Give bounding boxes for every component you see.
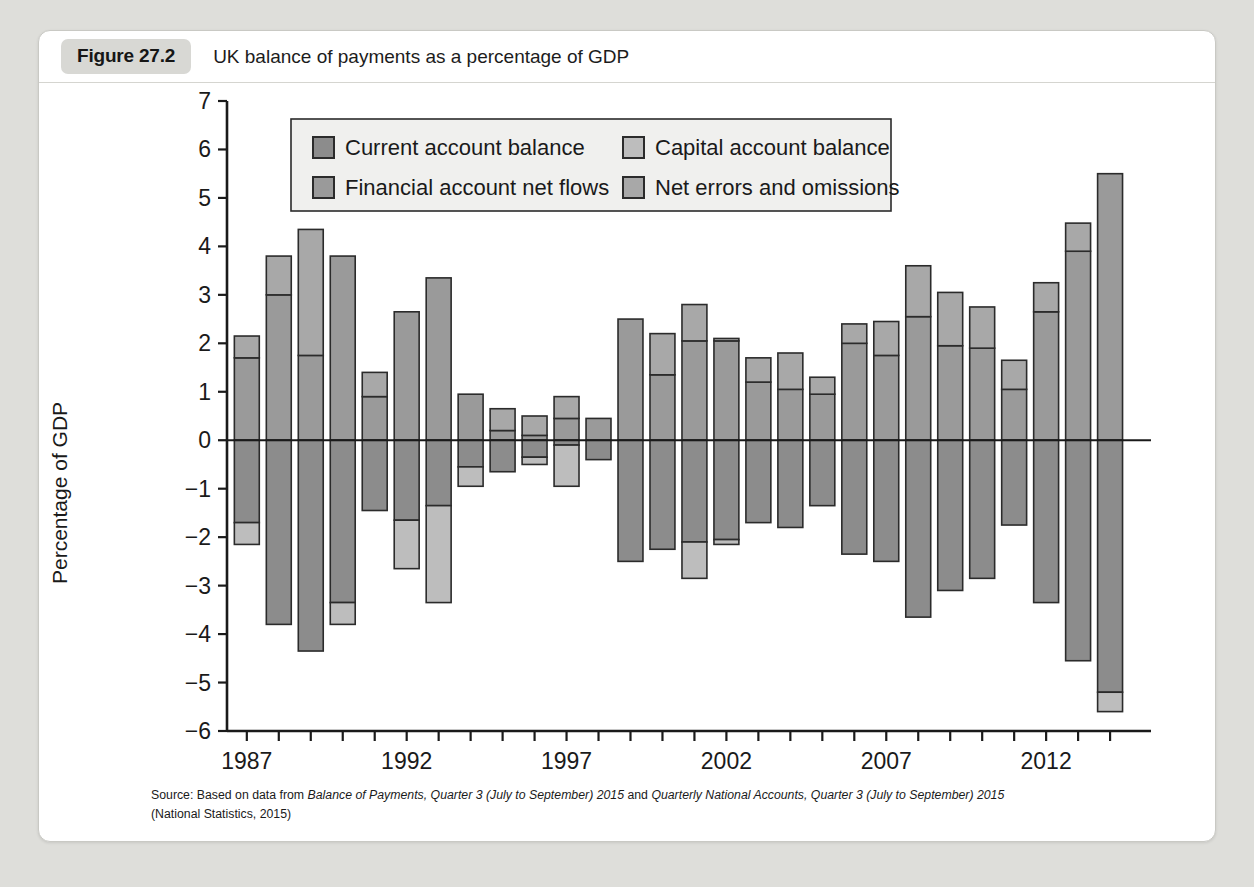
y-tick-label: 5 xyxy=(198,185,211,211)
bar-segment-capital_account xyxy=(682,542,707,578)
bar-segment-net_errors xyxy=(234,336,259,358)
bar-column xyxy=(714,338,739,544)
bar-segment-current_account xyxy=(394,440,419,520)
bar-column xyxy=(1034,283,1059,603)
svg-text:Percentage of GDP: Percentage of GDP xyxy=(48,402,71,584)
legend-label: Capital account balance xyxy=(655,135,890,160)
legend-swatch-financial_account xyxy=(313,177,334,198)
x-tick-label: 1987 xyxy=(221,748,272,774)
bar-segment-current_account xyxy=(490,440,515,472)
bar-segment-financial_account xyxy=(810,394,835,440)
bar-column xyxy=(554,397,579,487)
bar-segment-current_account xyxy=(970,440,995,578)
legend-label: Financial account net flows xyxy=(345,175,609,200)
x-tick-label: 2007 xyxy=(861,748,912,774)
bar-column xyxy=(1002,360,1027,525)
y-tick-label: −4 xyxy=(185,621,211,647)
bar-segment-current_account xyxy=(1034,440,1059,602)
bar-column xyxy=(874,322,899,562)
legend-label: Current account balance xyxy=(345,135,585,160)
bar-column xyxy=(1098,174,1123,712)
legend-item[interactable]: Current account balance xyxy=(313,135,585,160)
bar-segment-current_account xyxy=(330,440,355,602)
bar-segment-net_errors xyxy=(970,307,995,348)
bar-segment-financial_account xyxy=(970,348,995,440)
bar-segment-capital_account xyxy=(1098,692,1123,711)
bar-segment-financial_account xyxy=(298,355,323,440)
bar-column xyxy=(970,307,995,578)
bar-segment-financial_account xyxy=(586,418,611,440)
source-italic-1: Balance of Payments, Quarter 3 (July to … xyxy=(308,788,624,802)
bar-segment-financial_account xyxy=(906,317,931,441)
bar-column xyxy=(906,266,931,617)
chart-plot-area: Percentage of GDP 76543210−1−2−3−4−5−6 1… xyxy=(39,83,1215,789)
bar-column xyxy=(1066,223,1091,661)
bars-group xyxy=(234,174,1122,712)
bar-segment-net_errors xyxy=(490,409,515,431)
bar-segment-current_account xyxy=(426,440,451,505)
bar-segment-current_account xyxy=(362,440,387,510)
bar-segment-financial_account xyxy=(1002,389,1027,440)
bar-column xyxy=(842,324,867,554)
bar-column xyxy=(810,377,835,505)
bar-segment-financial_account xyxy=(1034,312,1059,440)
bar-segment-current_account xyxy=(458,440,483,467)
y-tick-label: 4 xyxy=(198,233,211,259)
y-tick-label: 0 xyxy=(198,427,211,453)
y-tick-label: 3 xyxy=(198,282,211,308)
bar-segment-current_account xyxy=(906,440,931,617)
bar-column xyxy=(938,292,963,590)
bar-segment-financial_account xyxy=(458,394,483,440)
legend-item[interactable]: Financial account net flows xyxy=(313,175,609,200)
bar-segment-net_errors xyxy=(554,397,579,419)
y-tick-label: 2 xyxy=(198,330,211,356)
bar-segment-net_errors xyxy=(298,229,323,355)
bar-segment-current_account xyxy=(650,440,675,549)
bar-segment-financial_account xyxy=(394,312,419,440)
bar-segment-net_errors xyxy=(1034,283,1059,312)
y-tick-label: −6 xyxy=(185,718,211,744)
bar-segment-current_account xyxy=(1002,440,1027,525)
bar-segment-financial_account xyxy=(426,278,451,440)
bar-segment-capital_account xyxy=(458,467,483,486)
bar-column xyxy=(682,305,707,579)
bar-column xyxy=(362,372,387,510)
bar-segment-net_errors xyxy=(938,292,963,345)
legend-swatch-current_account xyxy=(313,137,334,158)
bar-segment-current_account xyxy=(874,440,899,561)
y-tick-label: −2 xyxy=(185,524,211,550)
bar-segment-net_errors xyxy=(1002,360,1027,389)
x-tick-label: 1997 xyxy=(541,748,592,774)
bar-segment-current_account xyxy=(586,440,611,459)
bar-segment-net_errors xyxy=(714,338,739,340)
bar-segment-net_errors xyxy=(746,358,771,382)
bar-segment-capital_account xyxy=(394,520,419,568)
bar-segment-current_account xyxy=(1066,440,1091,661)
bar-segment-net_errors xyxy=(266,256,291,295)
bar-segment-net_errors xyxy=(682,305,707,341)
bar-segment-net_errors xyxy=(810,377,835,394)
figure-header: Figure 27.2 UK balance of payments as a … xyxy=(39,31,1215,83)
y-axis-ticks: 76543210−1−2−3−4−5−6 xyxy=(185,88,227,744)
legend-item[interactable]: Net errors and omissions xyxy=(623,175,900,200)
bar-segment-current_account xyxy=(234,440,259,522)
bar-segment-current_account xyxy=(298,440,323,651)
y-tick-label: −3 xyxy=(185,573,211,599)
bar-segment-current_account xyxy=(778,440,803,527)
legend-item[interactable]: Capital account balance xyxy=(623,135,890,160)
bar-segment-financial_account xyxy=(746,382,771,440)
bar-segment-current_account xyxy=(1098,440,1123,692)
source-prefix: Source: Based on data from xyxy=(151,788,308,802)
legend-swatch-capital_account xyxy=(623,137,644,158)
bar-segment-net_errors xyxy=(522,416,547,435)
figure-card: Figure 27.2 UK balance of payments as a … xyxy=(38,30,1216,842)
bar-segment-financial_account xyxy=(938,346,963,441)
bar-segment-net_errors xyxy=(842,324,867,343)
bar-segment-financial_account xyxy=(490,431,515,441)
bar-segment-financial_account xyxy=(234,358,259,440)
bar-segment-financial_account xyxy=(330,256,355,440)
bar-segment-financial_account xyxy=(618,319,643,440)
bar-segment-net_errors xyxy=(874,322,899,356)
bar-segment-current_account xyxy=(810,440,835,505)
bar-segment-financial_account xyxy=(266,295,291,440)
